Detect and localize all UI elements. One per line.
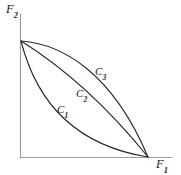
y-axis-label: F2	[6, 3, 18, 18]
curve-label-c2-subscript: 2	[83, 95, 87, 104]
pareto-front-figure: F2 F1 C3 C2 C1	[0, 0, 181, 175]
curve-label-c2: C2	[76, 88, 87, 102]
curve-label-c1: C1	[57, 104, 68, 118]
x-axis-label-base: F	[156, 157, 164, 171]
curve-label-c1-subscript: 1	[64, 111, 68, 120]
figure-canvas	[0, 0, 181, 175]
y-axis-label-subscript: 2	[14, 10, 18, 20]
curve-label-c3: C3	[95, 66, 106, 80]
y-axis-label-base: F	[6, 2, 14, 16]
x-axis-label-subscript: 1	[164, 165, 168, 175]
x-axis-label: F1	[156, 158, 168, 173]
curve-label-c3-subscript: 3	[102, 73, 106, 82]
